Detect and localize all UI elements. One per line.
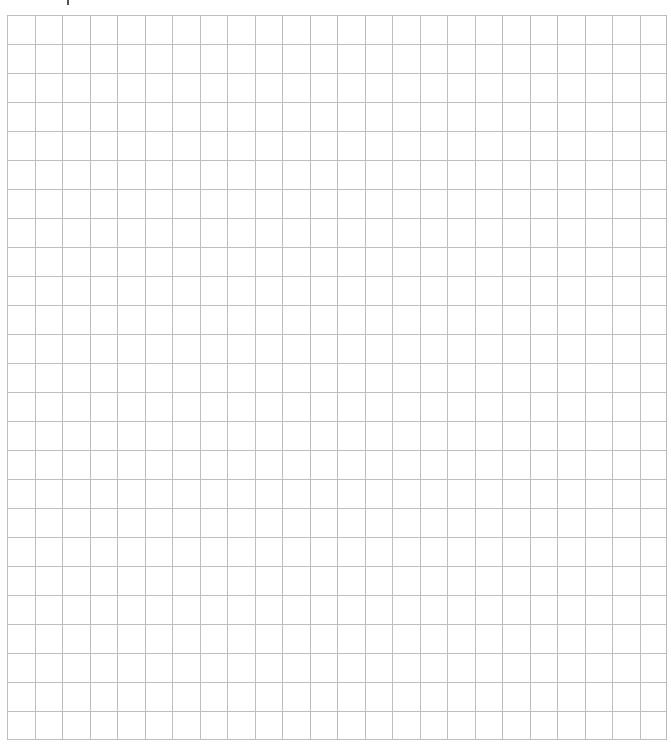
grid-paper [7, 15, 667, 740]
grid-lines [7, 15, 667, 740]
cropped-text-mark [67, 0, 69, 5]
